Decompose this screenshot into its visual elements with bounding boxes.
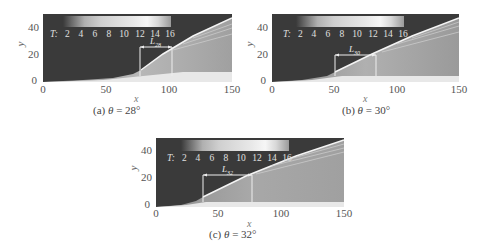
xtick-0: 0 (153, 207, 159, 219)
xtick-50: 50 (101, 83, 112, 95)
ytick-40: 40 (136, 144, 152, 156)
xtick-150: 150 (336, 207, 353, 219)
ytick-20: 20 (23, 48, 39, 60)
temperature-contour-plot-b: T: 2 4 6 8 10 12 14 16 L30 (272, 14, 459, 82)
xtick-0: 0 (40, 83, 46, 95)
ytick-20: 20 (252, 48, 268, 60)
ytick-40: 40 (252, 21, 268, 33)
xtick-100: 100 (161, 83, 178, 95)
caption-b: (b) θ = 30° (342, 104, 390, 116)
colorbar-labels-c: T: 2 4 6 8 10 12 14 16 (167, 153, 295, 163)
length-label-c: L32 (222, 164, 233, 176)
xtick-50: 50 (329, 83, 340, 95)
xtick-150: 150 (224, 83, 241, 95)
x-axis-label: x (134, 93, 138, 104)
panel-a: T: 2 4 6 8 10 12 14 16 L28 40 20 0 y 0 5… (0, 0, 242, 122)
y-axis-label: y (243, 42, 255, 47)
length-label-a: L28 (150, 36, 161, 48)
ytick-0: 0 (134, 198, 150, 210)
ytick-40: 40 (23, 21, 39, 33)
xtick-0: 0 (269, 83, 275, 95)
ytick-0: 0 (21, 74, 37, 86)
caption-c: (c) θ = 32° (209, 228, 256, 240)
y-axis-label: y (127, 166, 139, 171)
xtick-150: 150 (451, 83, 468, 95)
colorbar-c (181, 140, 289, 151)
y-axis-label: y (14, 42, 26, 47)
caption-a: (a) θ = 28° (93, 104, 140, 116)
ytick-20: 20 (136, 171, 152, 183)
panel-b: T: 2 4 6 8 10 12 14 16 L30 40 20 0 y 0 5… (242, 0, 484, 122)
xtick-50: 50 (213, 207, 224, 219)
temperature-contour-plot-c: T: 2 4 6 8 10 12 14 16 L32 (156, 138, 344, 207)
colorbar-labels-b: T: 2 4 6 8 10 12 14 16 (283, 29, 411, 39)
colorbar-a (63, 16, 171, 27)
xtick-100: 100 (389, 83, 406, 95)
ytick-0: 0 (250, 74, 266, 86)
x-axis-label: x (363, 93, 367, 104)
colorbar-b (296, 16, 404, 27)
length-label-b: L30 (349, 44, 360, 56)
temperature-contour-plot-a: T: 2 4 6 8 10 12 14 16 L28 (43, 14, 232, 82)
xtick-100: 100 (273, 207, 290, 219)
panel-c: T: 2 4 6 8 10 12 14 16 L32 40 20 0 y 0 5… (120, 122, 362, 244)
